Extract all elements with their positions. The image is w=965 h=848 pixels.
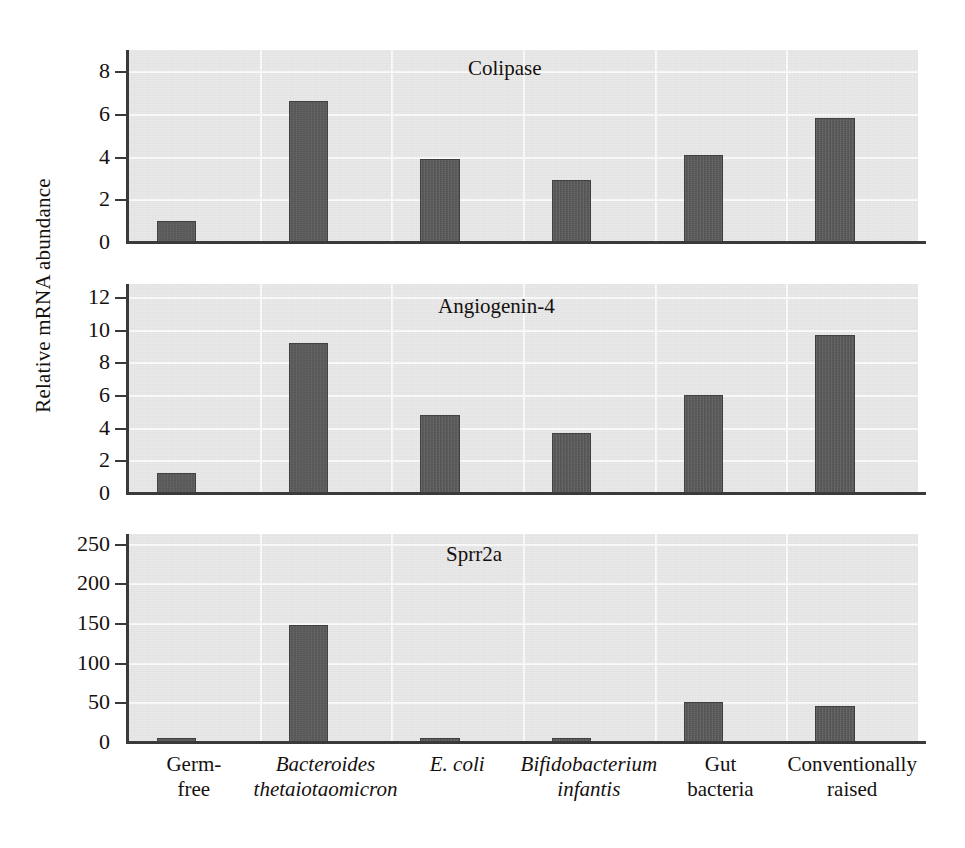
y-axis-tick [115, 395, 128, 397]
gridline-vertical [391, 534, 393, 742]
y-axis-tick-label: 2 [99, 449, 110, 471]
bar [420, 159, 460, 242]
gridline-vertical [655, 284, 657, 493]
y-axis-tick [115, 71, 128, 73]
y-axis-tick-label: 0 [99, 731, 110, 753]
panel-sprr2a: 050100150200250Sprr2a [128, 534, 918, 742]
y-axis-line [126, 50, 129, 242]
x-axis-label-line2: raised [764, 777, 940, 802]
y-axis-tick-label: 8 [99, 351, 110, 373]
y-axis-tick [115, 544, 128, 546]
x-axis-line [126, 492, 926, 495]
figure-multipanel-bar-chart: Relative mRNA abundance 02468Colipase 02… [0, 0, 965, 848]
plot-area [128, 534, 918, 742]
y-axis-tick [115, 297, 128, 299]
y-axis-tick-label: 6 [99, 384, 110, 406]
bar [552, 433, 592, 493]
panel-title: Colipase [468, 56, 542, 81]
y-axis-tick-label: 0 [99, 231, 110, 253]
y-axis-tick-label: 2 [99, 188, 110, 210]
panel-title: Sprr2a [446, 542, 502, 567]
gridline-vertical [655, 50, 657, 242]
bar [552, 180, 592, 242]
bar [684, 155, 724, 242]
y-axis-tick [115, 362, 128, 364]
bar [157, 221, 197, 242]
y-axis-tick-label: 6 [99, 103, 110, 125]
bar [684, 395, 724, 493]
y-axis-tick-label: 100 [77, 651, 110, 673]
y-axis-tick-label: 4 [99, 145, 110, 167]
gridline-vertical [786, 50, 788, 242]
y-axis-tick [115, 199, 128, 201]
y-axis-tick [115, 428, 128, 430]
bar [157, 473, 197, 493]
y-axis-tick [115, 702, 128, 704]
y-axis-tick [115, 460, 128, 462]
bar [420, 415, 460, 493]
gridline-vertical [786, 534, 788, 742]
bar [289, 625, 329, 742]
gridline-vertical [786, 284, 788, 493]
y-axis-tick-label: 4 [99, 416, 110, 438]
y-axis-tick-label: 8 [99, 60, 110, 82]
x-axis-category-labels: Germ-freeBacteroidesthetaiotaomicronE. c… [128, 752, 918, 832]
y-axis-tick [115, 583, 128, 585]
y-axis-tick-label: 50 [88, 691, 110, 713]
panel-title: Angiogenin-4 [438, 294, 555, 319]
y-axis-tick-label: 200 [77, 572, 110, 594]
x-axis-label-line1: Conventionally [764, 752, 940, 777]
y-axis-tick [115, 114, 128, 116]
y-axis-tick-label: 12 [88, 286, 110, 308]
bar [289, 343, 329, 493]
y-axis-tick [115, 623, 128, 625]
bar [815, 706, 855, 742]
panel-angiogenin-4: 024681012Angiogenin-4 [128, 284, 918, 493]
x-axis-label: Conventionallyraised [764, 752, 940, 802]
y-axis-tick [115, 330, 128, 332]
y-axis-tick [115, 157, 128, 159]
bar [684, 702, 724, 742]
y-axis-tick-label: 250 [77, 532, 110, 554]
panel-colipase: 02468Colipase [128, 50, 918, 242]
y-axis-tick [115, 663, 128, 665]
gridline-vertical [260, 50, 262, 242]
gridline-vertical [260, 284, 262, 493]
gridline-vertical [260, 534, 262, 742]
y-axis-tick-label: 0 [99, 482, 110, 504]
bar [815, 335, 855, 493]
y-axis-tick-label: 150 [77, 611, 110, 633]
gridline-vertical [523, 534, 525, 742]
bar [289, 101, 329, 242]
gridline-vertical [391, 284, 393, 493]
gridline-vertical [655, 534, 657, 742]
x-axis-line [126, 241, 926, 244]
y-axis-tick-label: 10 [88, 318, 110, 340]
bar [815, 118, 855, 242]
y-axis-line [126, 534, 129, 742]
y-axis-label: Relative mRNA abundance [31, 171, 56, 421]
gridline-vertical [391, 50, 393, 242]
x-axis-label-line2: thetaiotaomicron [238, 777, 414, 802]
x-axis-line [126, 741, 926, 744]
